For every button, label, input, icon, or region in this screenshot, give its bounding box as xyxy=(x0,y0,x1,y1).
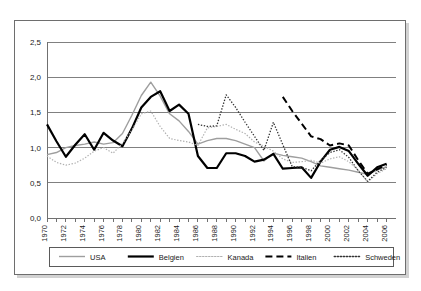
legend-label-kanada: Kanada xyxy=(228,253,255,262)
x-tick-label: 1996 xyxy=(285,225,294,242)
x-tick-label: 2000 xyxy=(323,225,332,242)
y-tick-label: 1,5 xyxy=(30,108,42,117)
x-axis-tick-labels: 1970197219741976197819801982198419861988… xyxy=(40,225,389,242)
series-line-kanada xyxy=(47,111,387,182)
series-line-usa xyxy=(47,82,387,174)
figure-frame: 0,00,51,01,52,02,5 197019721974197619781… xyxy=(14,20,406,275)
ticks-group xyxy=(47,218,387,222)
data-series-group xyxy=(47,82,387,182)
x-tick-label: 2002 xyxy=(342,225,351,242)
x-tick-label: 1994 xyxy=(266,225,275,242)
legend-label-schweden: Schweden xyxy=(365,253,400,262)
y-tick-label: 0,0 xyxy=(30,214,42,223)
legend-label-belgien: Belgien xyxy=(159,253,184,262)
legend-label-usa: USA xyxy=(90,253,105,262)
x-tick-label: 1982 xyxy=(153,225,162,242)
x-tick-label: 1970 xyxy=(40,225,49,242)
x-tick-label: 1972 xyxy=(59,225,68,242)
y-tick-label: 2,5 xyxy=(30,38,42,47)
x-tick-label: 1986 xyxy=(191,225,200,242)
y-axis-tick-labels: 0,00,51,01,52,02,5 xyxy=(30,38,42,223)
x-tick-label: 2004 xyxy=(361,225,370,242)
chart-screenshot-root: 0,00,51,01,52,02,5 197019721974197619781… xyxy=(0,0,421,291)
y-tick-label: 0,5 xyxy=(30,179,42,188)
series-line-italien xyxy=(283,97,387,174)
x-tick-label: 1984 xyxy=(172,225,181,242)
x-tick-label: 1988 xyxy=(210,225,219,242)
gridlines-group xyxy=(47,42,396,218)
x-tick-label: 1974 xyxy=(78,225,87,242)
chart-legend: USABelgienKanadaItalienSchweden xyxy=(49,247,400,266)
x-tick-label: 1976 xyxy=(97,225,106,242)
line-chart: 0,00,51,01,52,02,5 197019721974197619781… xyxy=(15,21,405,274)
x-tick-label: 1978 xyxy=(115,225,124,242)
x-tick-label: 1992 xyxy=(248,225,257,242)
y-tick-label: 1,0 xyxy=(30,144,42,153)
y-tick-label: 2,0 xyxy=(30,73,42,82)
axes-group xyxy=(47,42,396,218)
series-line-belgien xyxy=(47,91,387,178)
x-tick-label: 1990 xyxy=(229,225,238,242)
legend-label-italien: Italien xyxy=(296,253,316,262)
x-tick-label: 1980 xyxy=(134,225,143,242)
x-tick-label: 2006 xyxy=(380,225,389,242)
x-tick-label: 1998 xyxy=(304,225,313,242)
